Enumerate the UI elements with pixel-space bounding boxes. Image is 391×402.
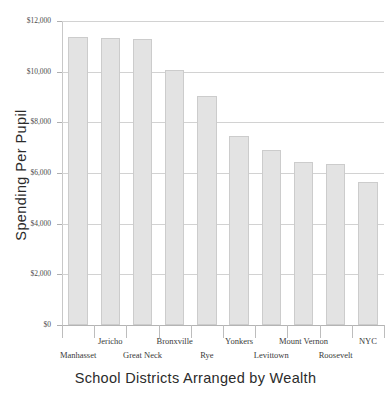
x-axis-title: School Districts Arranged by Wealth <box>0 370 391 386</box>
bar[interactable] <box>165 70 184 325</box>
bar-chart-figure: Spending Per Pupil $0$2,000$4,000$6,000$… <box>0 0 391 402</box>
bar[interactable] <box>101 38 120 325</box>
bar[interactable] <box>133 39 152 325</box>
x-axis-label: Rye <box>173 350 241 360</box>
bar[interactable] <box>326 164 345 325</box>
x-axis-label: NYC <box>334 336 391 346</box>
bar[interactable] <box>197 96 216 325</box>
x-axis-label: Roosevelt <box>302 350 370 360</box>
y-tick-label: $6,000 <box>0 168 51 177</box>
x-axis-label: Jericho <box>76 336 144 346</box>
bar[interactable] <box>262 150 281 325</box>
x-axis-label: Manhasset <box>44 350 112 360</box>
x-axis-label: Mount Vernon <box>270 336 338 346</box>
bar[interactable] <box>294 162 313 325</box>
bar[interactable] <box>68 37 87 325</box>
y-tick-label: $8,000 <box>0 117 51 126</box>
bar-slot <box>320 21 352 325</box>
bar-slot <box>159 21 191 325</box>
bar-slot <box>126 21 158 325</box>
bar[interactable] <box>229 136 248 325</box>
bar-slot <box>62 21 94 325</box>
y-tick-label: $10,000 <box>0 67 51 76</box>
x-axis-label: Yonkers <box>205 336 273 346</box>
x-axis-label: Bronxville <box>141 336 209 346</box>
bar-slot <box>94 21 126 325</box>
bars-layer <box>62 21 384 325</box>
bar-slot <box>287 21 319 325</box>
x-axis-label: Levittown <box>237 350 305 360</box>
bar-slot <box>255 21 287 325</box>
bar-slot <box>191 21 223 325</box>
y-tick-label: $12,000 <box>0 16 51 25</box>
bar-slot <box>352 21 384 325</box>
bar[interactable] <box>358 182 377 325</box>
y-tick-label: $2,000 <box>0 269 51 278</box>
y-tick-label: $0 <box>0 320 51 329</box>
plot-area: $0$2,000$4,000$6,000$8,000$10,000$12,000 <box>62 21 384 325</box>
x-axis-labels: ManhassetJerichoGreat NeckBronxvilleRyeY… <box>62 325 384 367</box>
bar-slot <box>223 21 255 325</box>
y-tick-label: $4,000 <box>0 219 51 228</box>
x-axis-label: Great Neck <box>109 350 177 360</box>
